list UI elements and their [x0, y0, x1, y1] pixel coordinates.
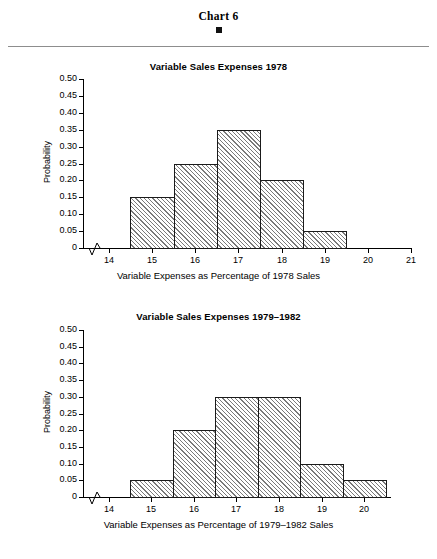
x-tick-label: 15	[131, 504, 171, 514]
y-axis-line	[83, 330, 84, 498]
x-tick-mark	[411, 249, 412, 253]
x-tick-label: 20	[348, 255, 388, 265]
x-tick-label: 14	[89, 504, 129, 514]
x-tick-mark	[151, 498, 152, 502]
y-tick-mark	[79, 414, 83, 415]
y-tick-mark	[79, 96, 83, 97]
x-tick-mark	[368, 249, 369, 253]
y-tick-mark	[79, 447, 83, 448]
y-tick-mark	[79, 248, 83, 249]
histogram-bar	[260, 180, 304, 249]
x-tick-mark	[236, 498, 237, 502]
y-tick-label: 0.45	[39, 341, 77, 351]
x-tick-mark	[322, 498, 323, 502]
x-axis-title: Variable Expenses as Percentage of 1978 …	[0, 270, 437, 281]
x-tick-mark	[194, 498, 195, 502]
histogram-bar	[174, 164, 218, 249]
histogram-bar	[130, 197, 175, 249]
plot-area-1979-1982: 0.500.450.400.350.300.250.200.150.100.05…	[0, 285, 437, 559]
y-tick-mark	[79, 464, 83, 465]
y-tick-label: 0.50	[39, 73, 77, 83]
y-tick-label: 0.45	[39, 90, 77, 100]
histogram-bar	[215, 397, 259, 498]
y-tick-label: 0.05	[39, 225, 77, 235]
x-tick-mark	[109, 498, 110, 502]
y-axis-title: Probability	[42, 102, 52, 222]
x-tick-mark	[282, 249, 283, 253]
y-tick-mark	[79, 397, 83, 398]
x-tick-mark	[279, 498, 280, 502]
y-tick-mark	[79, 363, 83, 364]
y-tick-mark	[79, 480, 83, 481]
plot-area-1978: 0.500.450.400.350.300.250.200.150.100.05…	[0, 0, 437, 285]
y-tick-mark	[79, 380, 83, 381]
x-tick-mark	[152, 249, 153, 253]
histogram-bar	[300, 464, 344, 498]
x-tick-mark	[325, 249, 326, 253]
y-tick-mark	[79, 113, 83, 114]
x-tick-label: 18	[259, 504, 299, 514]
y-tick-mark	[79, 79, 83, 80]
y-tick-label: 0.50	[39, 324, 77, 334]
x-tick-label: 17	[216, 504, 256, 514]
y-tick-mark	[79, 347, 83, 348]
figure-1978: Variable Sales Expenses 1978 0.500.450.4…	[0, 0, 437, 285]
y-tick-mark	[79, 180, 83, 181]
y-tick-label: 0	[39, 491, 77, 501]
x-tick-label: 19	[305, 255, 345, 265]
x-tick-label: 21	[391, 255, 431, 265]
y-tick-mark	[79, 497, 83, 498]
y-tick-mark	[79, 164, 83, 165]
x-tick-label: 16	[174, 504, 214, 514]
histogram-bar	[343, 480, 387, 498]
y-tick-mark	[79, 197, 83, 198]
histogram-bar	[217, 130, 261, 249]
x-tick-label: 16	[175, 255, 215, 265]
y-tick-label: 0	[39, 242, 77, 252]
x-tick-label: 19	[302, 504, 342, 514]
x-axis-break-icon	[88, 491, 106, 505]
y-tick-mark	[79, 130, 83, 131]
histogram-bar	[173, 430, 216, 498]
x-tick-label: 15	[132, 255, 172, 265]
x-tick-label: 14	[89, 255, 129, 265]
x-tick-mark	[238, 249, 239, 253]
x-tick-mark	[195, 249, 196, 253]
histogram-bar	[303, 231, 347, 249]
y-tick-label: 0.05	[39, 474, 77, 484]
y-tick-mark	[79, 430, 83, 431]
y-tick-mark	[79, 214, 83, 215]
y-tick-mark	[79, 231, 83, 232]
y-axis-line	[83, 79, 84, 249]
x-axis-title: Variable Expenses as Percentage of 1979–…	[0, 519, 437, 530]
x-tick-mark	[109, 249, 110, 253]
y-tick-mark	[79, 330, 83, 331]
x-tick-mark	[364, 498, 365, 502]
histogram-bar	[258, 397, 301, 498]
x-tick-label: 18	[262, 255, 302, 265]
y-axis-title: Probability	[42, 352, 52, 472]
y-tick-mark	[79, 147, 83, 148]
histogram-bar	[130, 480, 174, 498]
x-axis-break-icon	[88, 242, 106, 256]
figure-1979-1982: Variable Sales Expenses 1979–1982 0.500.…	[0, 285, 437, 559]
x-tick-label: 20	[344, 504, 384, 514]
x-tick-label: 17	[218, 255, 258, 265]
